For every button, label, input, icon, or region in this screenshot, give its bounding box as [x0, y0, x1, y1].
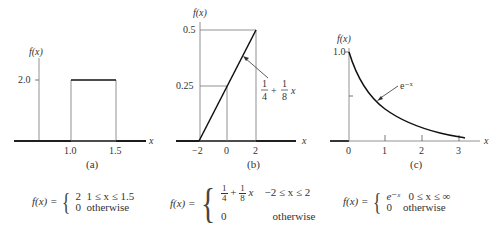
panel-c-xtick: 0 — [346, 145, 351, 156]
panel-c-curve — [349, 52, 465, 138]
panel-b-ytick: 0.5 — [183, 24, 196, 35]
panel-c-caption: (c) — [410, 158, 423, 171]
panel-b-arrow — [245, 58, 268, 78]
panel-c-xtick: 3 — [456, 145, 461, 156]
panel-a-xtick: 1.5 — [109, 145, 122, 156]
panel-a-xtick: 1.0 — [64, 145, 77, 156]
panel-c-ytick: 1.0 — [333, 46, 346, 57]
panel-b-xtick: −2 — [192, 145, 203, 156]
panel-a-ytick: 2.0 — [18, 74, 31, 85]
panel-c-xlabel: x — [483, 135, 489, 146]
svg-text:8: 8 — [282, 91, 287, 102]
panel-b-ytick: 0.25 — [176, 80, 194, 91]
equation-c: f(x) = { e⁻ˣ 0 ≤ x ≤ ∞ 0 otherwise — [343, 189, 450, 215]
panel-c-annotation: e⁻ˣ — [400, 80, 413, 91]
panel-b-xtick: 2 — [253, 145, 258, 156]
panel-b-annotation: 1 4 + 1 8 x — [261, 78, 296, 102]
panel-a-xlabel: x — [148, 135, 154, 146]
panel-a: f(x) 2.0 1.0 1.5 x (a) — [14, 46, 154, 171]
panel-c-ylabel: f(x) — [337, 33, 352, 45]
left-brace-icon: { — [201, 182, 215, 224]
panel-b-xtick: 0 — [224, 145, 229, 156]
panel-b-ylabel: f(x) — [193, 7, 208, 19]
panel-c-xtick: 1 — [382, 145, 387, 156]
svg-text:1: 1 — [262, 78, 267, 89]
panel-b: f(x) 0.5 0.25 −2 0 2 x 1 4 + 1 8 x (b) — [176, 7, 307, 171]
panel-b-xlabel: x — [301, 135, 307, 146]
panel-c-arrow — [379, 86, 398, 99]
svg-text:1: 1 — [282, 78, 287, 89]
panel-c: e⁻ˣ f(x) 1.0 0 1 2 3 x (c) — [330, 33, 489, 171]
left-brace-icon: { — [373, 189, 382, 215]
panel-a-ylabel: f(x) — [29, 46, 44, 58]
panel-a-caption: (a) — [86, 158, 99, 171]
equation-a: f(x) = { 2 1 ≤ x ≤ 1.5 0 otherwise — [32, 189, 134, 215]
left-brace-icon: { — [62, 189, 71, 215]
svg-text:4: 4 — [262, 91, 267, 102]
svg-text:+: + — [271, 85, 277, 96]
panel-b-caption: (b) — [247, 158, 260, 171]
panel-c-xtick: 2 — [419, 145, 424, 156]
equation-b: f(x) = { 14 + 18 x −2 ≤ x ≤ 2 0otherwise — [170, 182, 315, 224]
svg-text:x: x — [290, 85, 296, 96]
panel-b-curve — [199, 30, 256, 141]
